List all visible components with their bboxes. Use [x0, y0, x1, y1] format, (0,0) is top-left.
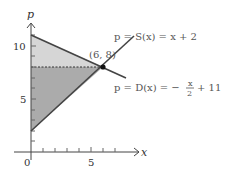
equilibrium-label: (6, 8) — [89, 49, 116, 60]
demand-equation: p = D(x) = − x 2 + 11 — [114, 79, 221, 98]
svg-text:x: x — [188, 79, 193, 88]
tick-label-y5: 5 — [20, 94, 26, 105]
surplus-chart: p x 0 5 5 10 (6, 8) p = S(x) = x + 2 p =… — [0, 0, 228, 177]
svg-text:+ 11: + 11 — [197, 82, 221, 93]
tick-label-y10: 10 — [13, 41, 26, 52]
y-axis-label: p — [27, 8, 34, 21]
svg-text:p = D(x) = −: p = D(x) = − — [114, 82, 180, 93]
supply-equation: p = S(x) = x + 2 — [114, 31, 197, 42]
x-axis-label: x — [141, 146, 148, 159]
tick-label-origin: 0 — [24, 157, 30, 168]
tick-label-x5: 5 — [88, 157, 94, 168]
equilibrium-point — [100, 64, 105, 69]
x-ticks — [43, 147, 115, 152]
svg-text:2: 2 — [187, 89, 192, 98]
